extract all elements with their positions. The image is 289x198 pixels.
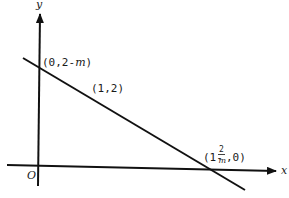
sloped-line — [23, 58, 245, 190]
diagram-canvas: y x O (0,2-m) (1,2) (1- 2 m ,0) — [0, 0, 289, 198]
origin-label: O — [27, 169, 36, 182]
point-label: (1,2) — [91, 82, 124, 95]
svg-text:,0): ,0) — [226, 151, 246, 164]
x-axis — [7, 165, 276, 171]
x-intercept-label: (1- 2 m ,0) — [203, 145, 246, 165]
y-intercept-label: (0,2-m) — [42, 56, 92, 69]
y-axis-label: y — [35, 0, 43, 11]
svg-text:2: 2 — [219, 145, 224, 154]
y-axis — [38, 14, 40, 186]
x-axis-label: x — [281, 164, 288, 177]
